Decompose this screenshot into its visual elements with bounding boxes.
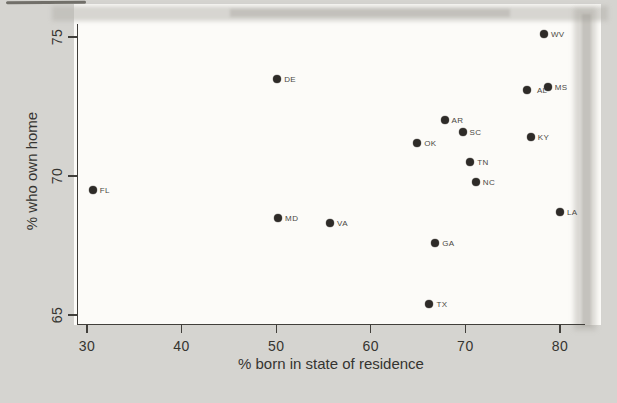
x-tick-label-80: 80 (552, 338, 569, 354)
x-tick-label-30: 30 (79, 338, 96, 354)
point-KY (527, 133, 535, 141)
x-tick-70 (465, 325, 466, 333)
y-tick-70 (68, 175, 77, 176)
point-label-OK: OK (424, 138, 436, 147)
point-AL (523, 86, 531, 94)
point-label-TN: TN (477, 158, 488, 167)
point-OK (413, 139, 421, 147)
scatterplot-figure: 657075 304050607080 FLDEMDVAOKTXGAARSCTN… (0, 0, 617, 403)
x-tick-label-50: 50 (268, 338, 285, 354)
x-tick-label-40: 40 (173, 338, 190, 354)
x-tick-60 (370, 325, 371, 333)
point-label-SC: SC (470, 127, 482, 136)
y-tick-label-75: 75 (49, 29, 65, 46)
point-label-MD: MD (285, 213, 298, 222)
point-NC (472, 178, 480, 186)
point-label-GA: GA (442, 238, 454, 247)
point-SC (459, 128, 467, 136)
point-GA (431, 239, 439, 247)
y-tick-label-65: 65 (49, 307, 65, 324)
point-label-KY: KY (538, 133, 549, 142)
point-MD (274, 214, 282, 222)
point-label-NC: NC (483, 177, 495, 186)
y-axis-title: % who own home (23, 112, 40, 230)
point-AR (441, 116, 449, 124)
point-label-AR: AR (452, 116, 464, 125)
x-axis-title: % born in state of residence (238, 355, 424, 372)
point-label-DE: DE (284, 74, 296, 83)
axes-frame (77, 24, 585, 325)
x-tick-80 (559, 325, 560, 333)
point-label-TX: TX (436, 299, 447, 308)
point-FL (89, 186, 97, 194)
point-label-LA: LA (567, 208, 578, 217)
x-tick-40 (181, 325, 182, 333)
point-label-VA: VA (337, 219, 348, 228)
point-label-WV: WV (551, 30, 565, 39)
x-tick-label-60: 60 (363, 338, 380, 354)
point-label-MS: MS (555, 83, 568, 92)
x-tick-30 (86, 325, 87, 333)
y-tick-75 (68, 36, 77, 37)
point-DE (273, 75, 281, 83)
point-label-FL: FL (100, 185, 110, 194)
x-tick-50 (276, 325, 277, 333)
y-tick-label-70: 70 (49, 168, 65, 185)
y-tick-65 (68, 314, 77, 315)
point-MS (544, 83, 552, 91)
x-tick-label-70: 70 (457, 338, 474, 354)
